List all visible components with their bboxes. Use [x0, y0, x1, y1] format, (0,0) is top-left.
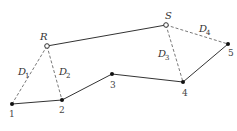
- station-s-label: S: [165, 10, 172, 21]
- diagram-svg: R S 1 2 3 4 5 D 1 D 2 D 3 D 4: [0, 0, 237, 131]
- diagram-canvas: R S 1 2 3 4 5 D 1 D 2 D 3 D 4: [0, 0, 237, 131]
- svg-text:4: 4: [206, 29, 211, 37]
- station-s-marker: [164, 23, 169, 28]
- point-5-label: 5: [228, 48, 234, 58]
- station-r-label: R: [39, 31, 48, 42]
- point-5-marker: [226, 42, 230, 46]
- distance-label-d2: D 2: [58, 66, 70, 80]
- distance-line-d4: [166, 25, 228, 44]
- point-2-marker: [60, 98, 64, 102]
- point-1-label: 1: [9, 109, 15, 119]
- point-4-marker: [181, 80, 185, 84]
- svg-text:1: 1: [25, 72, 29, 80]
- point-3-marker: [110, 72, 114, 76]
- svg-text:2: 2: [66, 72, 70, 80]
- distance-label-d1: D 1: [17, 66, 29, 80]
- station-baseline-r-s: [47, 25, 166, 46]
- distance-label-d3: D 3: [157, 48, 169, 62]
- point-4-label: 4: [182, 88, 188, 98]
- point-1-marker: [10, 102, 14, 106]
- station-r-marker: [45, 44, 50, 49]
- point-3-label: 3: [110, 80, 116, 90]
- point-2-label: 2: [59, 105, 65, 115]
- distance-label-d4: D 4: [198, 23, 211, 37]
- svg-text:3: 3: [165, 54, 169, 62]
- traverse-path: [12, 44, 228, 104]
